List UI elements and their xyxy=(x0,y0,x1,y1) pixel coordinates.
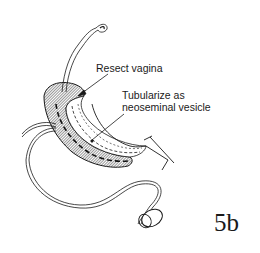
medical-illustration: Resect vagina Tubularize as neoseminal v… xyxy=(0,0,260,253)
figure-number: 5b xyxy=(214,209,239,237)
annotation-tubularize: Tubularize as neoseminal vesicle xyxy=(122,89,211,113)
upper-catheter xyxy=(62,24,107,92)
annotation-resect-vagina: Resect vagina xyxy=(96,62,163,74)
reservoir-bulb xyxy=(136,206,165,231)
